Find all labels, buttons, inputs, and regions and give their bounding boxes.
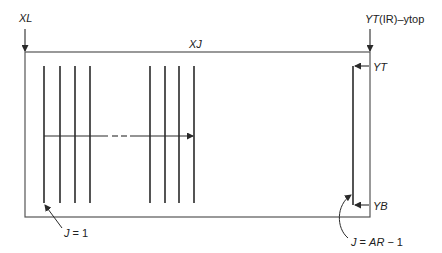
xl-label: XL: [19, 13, 32, 24]
ytop-label-yt: YT: [365, 13, 379, 25]
yt-label: YT: [373, 62, 387, 73]
right-line-group: [150, 66, 194, 203]
j-first-value: = 1: [70, 227, 89, 239]
ytop-label-suffix: (IR)–ytop: [379, 13, 424, 25]
j-last-suffix: − 1: [384, 236, 403, 248]
ytop-label: YT(IR)–ytop: [365, 14, 424, 25]
diagram-canvas: [0, 0, 442, 253]
yb-label: YB: [373, 201, 388, 212]
left-line-group: [44, 66, 90, 203]
domain-rectangle: [25, 52, 370, 217]
j-last-ar: AR: [369, 236, 384, 248]
j-last-label: J = AR − 1: [351, 237, 403, 248]
j-last-eq: =: [357, 236, 370, 248]
j-first-label: J = 1: [64, 228, 88, 239]
xj-label: XJ: [189, 39, 202, 50]
